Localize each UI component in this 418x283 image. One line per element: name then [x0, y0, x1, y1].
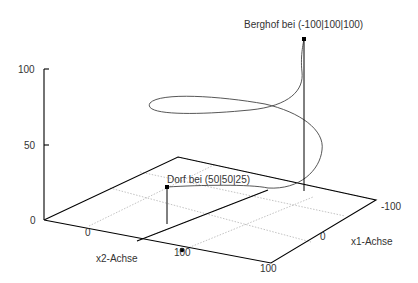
- x2-axis-label: x2-Achse: [96, 253, 138, 264]
- berghof-marker: Berghof bei (-100|100|100): [244, 19, 363, 191]
- base-plane: [44, 157, 376, 263]
- x1-axis: -100 0 100 x1-Achse: [260, 201, 401, 274]
- z-axis: 100 50 0: [18, 64, 49, 226]
- dorf-marker: Dorf bei (50|50|25): [165, 174, 250, 224]
- x1-tick-neg100: -100: [381, 201, 401, 212]
- x2-tick-0: 0: [85, 227, 91, 238]
- 3d-plot: 100 50 0 Berghof bei (-100|100|100) Dorf…: [0, 0, 418, 283]
- base-grid: [89, 157, 376, 252]
- x2-axis: 0 100 x2-Achse: [85, 227, 191, 264]
- x1-tick-0: 0: [320, 231, 326, 242]
- berghof-label: Berghof bei (-100|100|100): [244, 19, 363, 30]
- z-tick-0: 0: [30, 215, 36, 226]
- x1-axis-label: x1-Achse: [351, 236, 393, 247]
- helix-curve: [149, 39, 322, 188]
- z-tick-50: 50: [24, 140, 36, 151]
- dorf-label: Dorf bei (50|50|25): [167, 174, 250, 185]
- z-tick-100: 100: [18, 64, 35, 75]
- x2-tick-100: 100: [174, 247, 191, 258]
- x1-tick-100: 100: [260, 263, 277, 274]
